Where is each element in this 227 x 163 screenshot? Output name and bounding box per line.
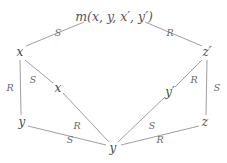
edge-zp-yp [175,60,202,87]
node-yp: y′ [165,86,175,98]
node-y_bot: y [110,142,117,154]
node-zp: z′ [202,46,211,58]
edge-x_top-y_left [20,60,21,115]
edge-label-x_top-x_mid: S [30,75,37,85]
edge-label-yp-y_bot: S [149,121,156,131]
edge-label-zp-z: S [214,83,221,93]
edge-label-root-zp: R [166,28,173,38]
lattice-diagram: SRRSSRRSSRm(x, y, x′, y′)xz′xy′yzy [0,0,227,163]
edge-zp-z [206,60,207,115]
edge-label-x_mid-y_bot: R [73,121,80,131]
node-y_left: y [19,116,26,128]
edge-label-x_top-y_left: R [6,83,13,93]
edge-label-y_left-y_bot: S [67,135,74,145]
node-x_mid: x [55,82,62,94]
edge-label-x_top-root: S [55,28,62,38]
node-z: z [202,116,208,128]
edge-label-zp-yp: R [190,75,197,85]
edge-label-z-y_bot: R [156,135,163,145]
node-x_top: x [17,46,24,58]
node-root: m(x, y, x′, y′) [75,11,153,24]
